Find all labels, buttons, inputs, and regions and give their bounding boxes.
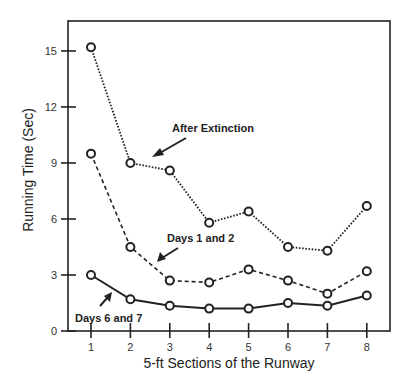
data-point <box>126 159 134 167</box>
x-tick-label: 4 <box>206 341 212 353</box>
arrow-days-1-2 <box>162 248 178 258</box>
data-point <box>87 43 95 51</box>
data-series <box>87 43 371 312</box>
data-point <box>205 305 213 313</box>
x-tick-label: 8 <box>364 341 370 353</box>
data-point <box>284 243 292 251</box>
data-point <box>126 295 134 303</box>
data-point <box>363 267 371 275</box>
x-axis: 12345678 <box>88 323 370 353</box>
data-point <box>205 219 213 227</box>
annotation-days-6-7: Days 6 and 7 <box>75 312 142 324</box>
data-point <box>166 302 174 310</box>
plot-frame <box>68 21 390 331</box>
data-point <box>323 247 331 255</box>
series-after-extinction <box>87 43 371 255</box>
data-point <box>284 277 292 285</box>
data-point <box>166 277 174 285</box>
y-axis: 03691215 <box>45 45 76 337</box>
y-tick-label: 0 <box>51 325 57 337</box>
data-point <box>245 208 253 216</box>
data-point <box>87 150 95 158</box>
x-tick-label: 6 <box>285 341 291 353</box>
series-line <box>91 47 367 251</box>
x-tick-label: 3 <box>167 341 173 353</box>
annotation-days-1-2: Days 1 and 2 <box>167 232 234 244</box>
y-tick-label: 15 <box>45 45 57 57</box>
y-tick-label: 9 <box>51 157 57 169</box>
x-axis-title: 5-ft Sections of the Runway <box>143 355 314 371</box>
annotation-after-extinction: After Extinction <box>172 122 254 134</box>
data-point <box>245 305 253 313</box>
series-line <box>91 154 367 294</box>
y-tick-label: 6 <box>51 213 57 225</box>
y-tick-label: 12 <box>45 101 57 113</box>
data-point <box>126 243 134 251</box>
data-point <box>323 290 331 298</box>
x-tick-label: 7 <box>324 341 330 353</box>
arrowhead-after-extinction <box>152 148 164 157</box>
data-point <box>363 202 371 210</box>
y-axis-title: Running Time (Sec) <box>20 108 36 232</box>
series-days-1-and-2 <box>87 150 371 298</box>
x-tick-label: 2 <box>127 341 133 353</box>
data-point <box>363 292 371 300</box>
data-point <box>166 166 174 174</box>
data-point <box>205 278 213 286</box>
arrow-after-extinction <box>158 138 186 154</box>
x-tick-label: 5 <box>246 341 252 353</box>
data-point <box>245 265 253 273</box>
annotations: After Extinction Days 1 and 2 Days 6 and… <box>75 122 254 324</box>
data-point <box>284 299 292 307</box>
x-tick-label: 1 <box>88 341 94 353</box>
line-chart: 03691215 12345678 After Extinction Days … <box>0 0 411 388</box>
data-point <box>323 302 331 310</box>
data-point <box>87 271 95 279</box>
y-tick-label: 3 <box>51 269 57 281</box>
